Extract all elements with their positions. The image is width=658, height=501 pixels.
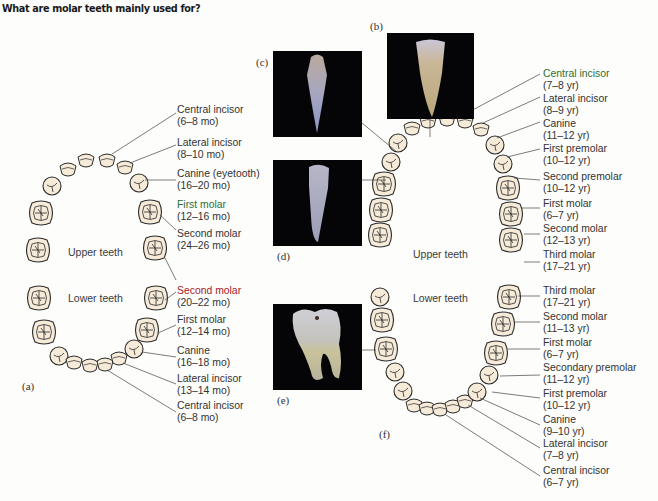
figure-label-d: (d): [277, 250, 290, 262]
a-lower-central-incisor: Central incisor(6–8 mo): [177, 400, 243, 424]
f-upper-second-premolar: Second premolar(10–12 yr): [543, 171, 622, 195]
a-lower-second-molar: Second molar(20–22 mo): [177, 285, 241, 309]
photo-e-molar-tooth: [273, 304, 362, 390]
a-upper-lateral-incisor: Lateral incisor(8–10 mo): [177, 137, 242, 161]
a-lower-first-molar: First molar(12–14 mo): [177, 314, 230, 338]
a-lower-teeth-label: Lower teeth: [68, 292, 123, 304]
a-upper-teeth-label: Upper teeth: [68, 246, 123, 258]
photo-b-incisor-tooth: [387, 33, 474, 119]
f-upper-teeth-label: Upper teeth: [413, 248, 468, 260]
photo-c-canine-tooth: [273, 51, 362, 137]
figure-label-c: (c): [256, 56, 268, 68]
figure-label-a: (a): [22, 380, 34, 392]
f-upper-canine: Canine(11–12 yr): [543, 118, 590, 142]
f-lower-secondary-premolar: Secondary premolar(11–12 yr): [543, 362, 637, 386]
f-lower-central-incisor: Central incisor(6–7 yr): [543, 465, 609, 489]
f-upper-third-molar: Third molar(17–21 yr): [543, 249, 596, 273]
a-upper-first-molar: First molar(12–16 mo): [177, 199, 230, 223]
premolar-tooth-image: [273, 160, 362, 246]
figure-label-e: (e): [277, 394, 289, 406]
f-lower-first-molar: First molar(6–7 yr): [543, 337, 592, 361]
a-upper-second-molar: Second molar(24–26 mo): [177, 228, 241, 252]
f-upper-second-molar: Second molar(12–13 yr): [543, 223, 607, 247]
f-upper-first-molar: First molar(6–7 yr): [543, 198, 592, 222]
f-lower-canine: Canine(9–10 yr): [543, 414, 585, 438]
f-lower-second-molar: Second molar(11–13 yr): [543, 311, 607, 335]
a-upper-canine: Canine (eyetooth)(16–20 mo): [177, 168, 260, 192]
f-upper-first-premolar: First premolar(10–12 yr): [543, 143, 607, 167]
a-lower-lateral-incisor: Lateral incisor(13–14 mo): [177, 373, 242, 397]
f-upper-lateral-incisor: Lateral incisor(8–9 yr): [543, 93, 608, 117]
panel-a-leader-lines: [107, 113, 176, 412]
canine-tooth-image: [273, 51, 362, 137]
a-lower-canine: Canine(16–18 mo): [177, 345, 230, 369]
panel-f-upper-arch: [369, 113, 523, 252]
molar-tooth-image: [273, 304, 362, 390]
panel-f-leader-lines: [446, 74, 540, 476]
panel-f-lower-arch: [371, 285, 521, 416]
photo-d-premolar-tooth: [273, 160, 362, 246]
f-lower-teeth-label: Lower teeth: [413, 292, 468, 304]
incisor-tooth-image: [387, 33, 474, 119]
f-lower-first-premolar: First premolar(10–12 yr): [543, 388, 607, 412]
a-upper-central-incisor: Central incisor(6–8 mo): [177, 104, 243, 128]
f-upper-central-incisor: Central incisor(7–8 yr): [543, 68, 609, 92]
figure-label-b: (b): [370, 20, 383, 32]
figure-label-f: (f): [379, 428, 390, 440]
f-lower-third-molar: Third molar(17–21 yr): [543, 285, 596, 309]
f-lower-lateral-incisor: Lateral incisor(7–8 yr): [543, 438, 608, 462]
